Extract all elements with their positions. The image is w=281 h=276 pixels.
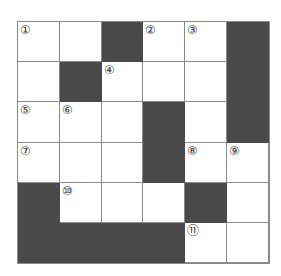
clue-number: ⑨ bbox=[229, 145, 240, 157]
clue-number: ⑧ bbox=[187, 145, 198, 157]
answer-cell[interactable]: ⑪ bbox=[185, 223, 227, 263]
answer-cell[interactable] bbox=[185, 102, 227, 142]
block-cell bbox=[143, 143, 185, 183]
clue-number: ⑩ bbox=[62, 185, 73, 197]
answer-cell[interactable]: ⑦ bbox=[18, 143, 60, 183]
answer-cell[interactable]: ⑧ bbox=[185, 143, 227, 183]
answer-cell[interactable]: ⑥ bbox=[60, 102, 102, 142]
block-cell bbox=[18, 183, 60, 223]
block-cell bbox=[102, 22, 144, 62]
clue-number: ② bbox=[145, 24, 156, 36]
answer-cell[interactable]: ⑩ bbox=[60, 183, 102, 223]
block-cell bbox=[227, 62, 269, 102]
answer-cell[interactable]: ① bbox=[18, 22, 60, 62]
answer-cell[interactable]: ⑤ bbox=[18, 102, 60, 142]
clue-number: ⑥ bbox=[62, 104, 73, 116]
answer-cell[interactable] bbox=[102, 183, 144, 223]
answer-cell[interactable] bbox=[18, 62, 60, 102]
answer-cell[interactable] bbox=[143, 183, 185, 223]
answer-cell[interactable]: ② bbox=[143, 22, 185, 62]
answer-cell[interactable] bbox=[185, 62, 227, 102]
answer-cell[interactable]: ⑨ bbox=[227, 143, 269, 183]
block-cell bbox=[227, 102, 269, 142]
block-cell bbox=[60, 62, 102, 102]
block-cell bbox=[102, 223, 144, 263]
crossword-grid: ①②③④⑤⑥⑦⑧⑨⑩⑪ bbox=[17, 21, 270, 264]
clue-number: ③ bbox=[187, 24, 198, 36]
block-cell bbox=[143, 102, 185, 142]
clue-number: ④ bbox=[104, 64, 115, 76]
answer-cell[interactable] bbox=[143, 62, 185, 102]
clue-number: ⑪ bbox=[187, 225, 199, 237]
answer-cell[interactable] bbox=[102, 143, 144, 183]
answer-cell[interactable] bbox=[60, 22, 102, 62]
answer-cell[interactable]: ④ bbox=[102, 62, 144, 102]
answer-cell[interactable] bbox=[60, 143, 102, 183]
answer-cell[interactable] bbox=[227, 183, 269, 223]
answer-cell[interactable] bbox=[102, 102, 144, 142]
clue-number: ⑤ bbox=[20, 104, 31, 116]
block-cell bbox=[185, 183, 227, 223]
block-cell bbox=[227, 22, 269, 62]
clue-number: ① bbox=[20, 24, 31, 36]
block-cell bbox=[18, 223, 60, 263]
answer-cell[interactable] bbox=[227, 223, 269, 263]
block-cell bbox=[60, 223, 102, 263]
answer-cell[interactable]: ③ bbox=[185, 22, 227, 62]
clue-number: ⑦ bbox=[20, 145, 31, 157]
block-cell bbox=[143, 223, 185, 263]
